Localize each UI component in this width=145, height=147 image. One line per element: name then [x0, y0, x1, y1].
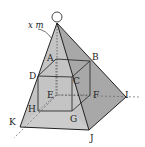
vertex-label-E: E [47, 90, 54, 100]
vertex-label-A: A [46, 53, 54, 63]
vertex-label-B: B [92, 52, 99, 62]
height-label: x m [28, 20, 44, 30]
diagram-canvas: x m A B C D E F G H I J K [0, 0, 145, 147]
vertex-label-F: F [93, 90, 99, 100]
vertex-label-C: C [73, 76, 80, 86]
vertex-label-D: D [29, 71, 36, 81]
apex-ball [52, 12, 62, 22]
pyramid-diagram: x m A B C D E F G H I J K [0, 0, 145, 147]
vertex-label-I: I [125, 90, 129, 100]
vertex-label-K: K [9, 117, 16, 127]
height-label-pointer [38, 29, 52, 39]
vertex-label-J: J [89, 133, 94, 143]
vertex-label-G: G [70, 114, 77, 124]
vertex-label-H: H [28, 104, 36, 114]
